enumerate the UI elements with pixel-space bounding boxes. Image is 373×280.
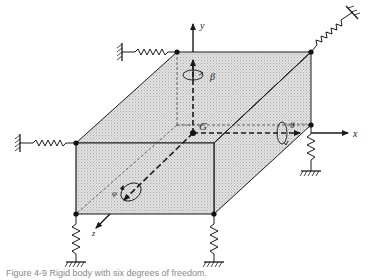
- spring-top-back-right: [311, 6, 360, 52]
- figure-caption: Figure 4-9 Rigid body with six degrees o…: [6, 268, 207, 278]
- rigid-body-diagram: y x z G β θ φ: [0, 0, 373, 280]
- spring-front-bottom-right: [203, 214, 224, 267]
- center-label: G: [199, 120, 207, 132]
- center-of-gravity-point: [190, 130, 196, 136]
- y-axis-label: y: [199, 20, 205, 31]
- spring-front-bottom-left: [65, 214, 86, 267]
- beta-label: β: [209, 71, 215, 82]
- spring-top-back-left: [117, 43, 177, 61]
- spring-front-top-left: [15, 134, 76, 152]
- z-axis-label: z: [91, 229, 96, 238]
- x-axis-label: x: [352, 128, 358, 139]
- theta-label: θ: [290, 120, 295, 130]
- phi-label: φ: [112, 188, 117, 198]
